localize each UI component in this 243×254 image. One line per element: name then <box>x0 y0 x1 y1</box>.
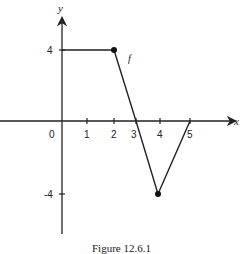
function-graph: 0 1 2 3 4 5 4 -4 x y f <box>0 0 243 254</box>
y-tick-label-neg4: -4 <box>44 189 53 200</box>
x-tick-label-2: 2 <box>111 129 117 140</box>
y-axis-label: y <box>57 2 63 14</box>
x-tick-label-3: 3 <box>131 129 137 140</box>
point-4-neg4 <box>155 191 161 197</box>
y-tick-label-4: 4 <box>47 45 53 56</box>
figure-caption: Figure 12.6.1 <box>0 242 243 254</box>
point-2-4 <box>111 47 117 53</box>
x-tick-label-5: 5 <box>187 129 193 140</box>
function-label: f <box>128 53 132 64</box>
function-f-line <box>62 50 190 194</box>
x-tick-label-4: 4 <box>157 129 163 140</box>
x-tick-label-0: 0 <box>49 129 55 140</box>
x-tick-label-1: 1 <box>84 129 90 140</box>
x-axis-label: x <box>233 115 239 127</box>
